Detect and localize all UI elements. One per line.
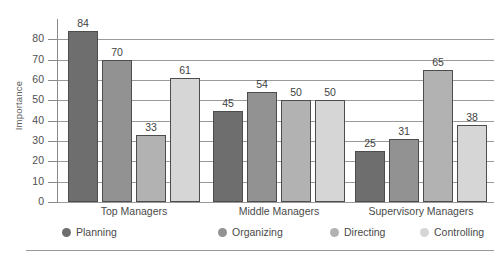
bar-controlling-middle-managers: 50 [315,100,345,202]
legend-label: Organizing [232,226,283,238]
y-axis-tick-labels: 80706050403020100 [8,19,44,202]
y-axis-tick-label: 80 [8,32,44,44]
bar-value-label: 54 [256,78,268,90]
x-axis-category-label: Middle Managers [209,205,349,217]
y-axis-tick-label: 60 [8,73,44,85]
bottom-divider [26,250,494,251]
x-axis-category-label: Top Managers [64,205,204,217]
bar-group: 45545050 [213,19,353,202]
bar-value-label: 65 [432,56,444,68]
x-axis-category-labels: Top ManagersMiddle ManagersSupervisory M… [58,205,494,221]
y-axis-tick-label: 10 [8,175,44,187]
x-axis-category-label: Supervisory Managers [351,205,491,217]
chart-legend: PlanningOrganizingDirectingControlling [0,226,499,244]
y-axis-tick-label: 30 [8,134,44,146]
circle-swatch-directing-icon [330,228,339,237]
bar-planning-middle-managers: 45 [213,111,243,203]
y-axis-tick [48,60,58,61]
gridline [58,202,494,203]
bar-value-label: 45 [222,97,234,109]
y-axis-tick-label: 20 [8,154,44,166]
bar-value-label: 50 [324,86,336,98]
bar-organizing-top-managers: 70 [102,60,132,202]
y-axis-tick-label: 0 [8,195,44,207]
legend-label: Planning [76,226,117,238]
bar-group: 84703361 [68,19,208,202]
circle-swatch-planning-icon [62,228,71,237]
bar-chart: Importance 80706050403020100 84703361455… [0,0,499,260]
bar-group: 25316538 [355,19,495,202]
bar-value-label: 25 [364,137,376,149]
y-axis-tick [48,100,58,101]
bar-directing-top-managers: 33 [136,135,166,202]
bar-value-label: 38 [466,111,478,123]
legend-label: Directing [344,226,385,238]
bar-directing-middle-managers: 50 [281,100,311,202]
bar-controlling-top-managers: 61 [170,78,200,202]
bar-directing-supervisory-managers: 65 [423,70,453,202]
y-axis-tick [48,202,58,203]
legend-item-controlling[interactable]: Controlling [420,226,484,238]
y-axis-tick-label: 40 [8,114,44,126]
legend-item-organizing[interactable]: Organizing [218,226,283,238]
circle-swatch-controlling-icon [420,228,429,237]
bar-value-label: 50 [290,86,302,98]
y-axis-tick [48,80,58,81]
bar-value-label: 33 [145,121,157,133]
y-axis-tick [48,39,58,40]
y-axis-tick [48,121,58,122]
legend-item-directing[interactable]: Directing [330,226,385,238]
circle-swatch-organizing-icon [218,228,227,237]
y-axis-tick [48,141,58,142]
bar-value-label: 70 [111,46,123,58]
bar-value-label: 61 [179,64,191,76]
y-axis-tick [48,161,58,162]
bar-planning-supervisory-managers: 25 [355,151,385,202]
y-axis-tick-label: 50 [8,93,44,105]
bar-organizing-supervisory-managers: 31 [389,139,419,202]
bar-value-label: 31 [398,125,410,137]
legend-item-planning[interactable]: Planning [62,226,117,238]
bar-value-label: 84 [77,17,89,29]
plot-area: 847033614554505025316538 [58,19,494,202]
bar-controlling-supervisory-managers: 38 [457,125,487,202]
bar-planning-top-managers: 84 [68,31,98,202]
bar-organizing-middle-managers: 54 [247,92,277,202]
legend-label: Controlling [434,226,484,238]
y-axis-tick-label: 70 [8,53,44,65]
y-axis-tick [48,182,58,183]
